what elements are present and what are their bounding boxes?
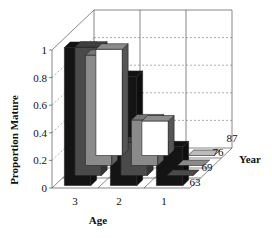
chart-bars bbox=[64, 42, 220, 186]
age-label-1: 1 bbox=[161, 195, 167, 207]
x-axis-label: Age bbox=[89, 214, 107, 226]
y-tick-label: 1 bbox=[42, 44, 48, 56]
age-label-2: 2 bbox=[116, 195, 122, 207]
age-label-3: 3 bbox=[72, 195, 78, 207]
year-label-76: 76 bbox=[213, 146, 225, 158]
year-label-69: 69 bbox=[202, 161, 214, 173]
bar-age-1-year-76 bbox=[167, 170, 199, 176]
y-tick-label: 0.6 bbox=[33, 99, 47, 111]
y-tick-label: 0.2 bbox=[33, 154, 47, 166]
bar-age-2-year-63 bbox=[142, 116, 174, 156]
bar-age-3-year-63 bbox=[96, 44, 128, 156]
bar-chart-3d: 00.20.40.60.81 Proportion Mature Age Yea… bbox=[0, 0, 272, 238]
y-axis-label: Proportion Mature bbox=[8, 95, 20, 185]
y-tick-label: 0.4 bbox=[33, 127, 47, 139]
year-label-87: 87 bbox=[227, 132, 239, 144]
z-axis-label: Year bbox=[239, 153, 261, 165]
y-tick-label: 0.8 bbox=[33, 72, 47, 84]
y-axis-ticks: 00.20.40.60.81 bbox=[33, 44, 52, 194]
year-label-63: 63 bbox=[190, 176, 202, 188]
y-tick-label: 0 bbox=[42, 182, 48, 194]
